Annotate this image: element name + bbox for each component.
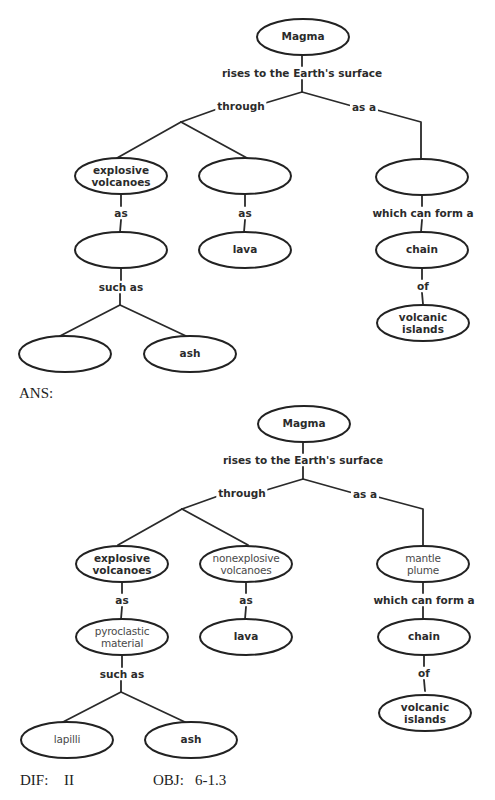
dif-value: II xyxy=(64,772,74,789)
answer-link-such-as: such as xyxy=(98,669,146,680)
link-as-a: as a xyxy=(350,102,378,113)
answer-node-magma: Magma xyxy=(259,418,349,430)
link-explosive-as: as xyxy=(112,208,129,219)
answer-node-nonexplosive-volcanoes: nonexplosive volcanoes xyxy=(205,553,287,576)
question-concept-map: Magma rises to the Earth's surface throu… xyxy=(0,0,495,380)
answer-node-pyroclastic-material: pyroclastic material xyxy=(87,626,157,649)
link-rises-to-surface: rises to the Earth's surface xyxy=(220,68,384,79)
answer-node-lapilli: lapilli xyxy=(22,734,112,746)
answer-node-ash: ash xyxy=(146,734,236,746)
answer-link-nonexplosive-as: as xyxy=(237,595,254,606)
link-nonexplosive-as: as xyxy=(236,208,253,219)
node-explosive-volcanoes: explosive volcanoes xyxy=(76,165,166,188)
link-such-as: such as xyxy=(97,282,145,293)
node-volcanic-islands: volcanic islands xyxy=(388,312,458,335)
answer-node-explosive-volcanoes: explosive volcanoes xyxy=(77,553,167,576)
obj-label: OBJ: xyxy=(153,772,184,789)
link-through: through xyxy=(215,101,266,112)
answer-link-which-can-form-a: which can form a xyxy=(371,595,476,606)
answer-node-volcanic-islands: volcanic islands xyxy=(390,702,460,725)
node-ash: ash xyxy=(145,348,235,360)
answer-node-chain: chain xyxy=(379,631,469,643)
answer-link-explosive-as: as xyxy=(113,595,130,606)
obj-value: 6-1.3 xyxy=(195,772,226,789)
dif-label: DIF: xyxy=(20,772,48,789)
answer-node-mantle-plume: mantle plume xyxy=(398,553,448,576)
node-magma: Magma xyxy=(258,31,348,43)
answer-node-lava: lava xyxy=(201,631,291,643)
answer-link-as-a: as a xyxy=(351,489,379,500)
answer-link-rises-to-surface: rises to the Earth's surface xyxy=(221,455,385,466)
link-which-can-form-a: which can form a xyxy=(370,208,475,219)
node-lava: lava xyxy=(200,244,290,256)
answer-concept-map: Magma rises to the Earth's surface throu… xyxy=(0,387,495,767)
link-of: of xyxy=(415,281,431,292)
answer-link-of: of xyxy=(416,668,432,679)
answer-link-through: through xyxy=(216,488,267,499)
node-chain: chain xyxy=(377,244,467,256)
